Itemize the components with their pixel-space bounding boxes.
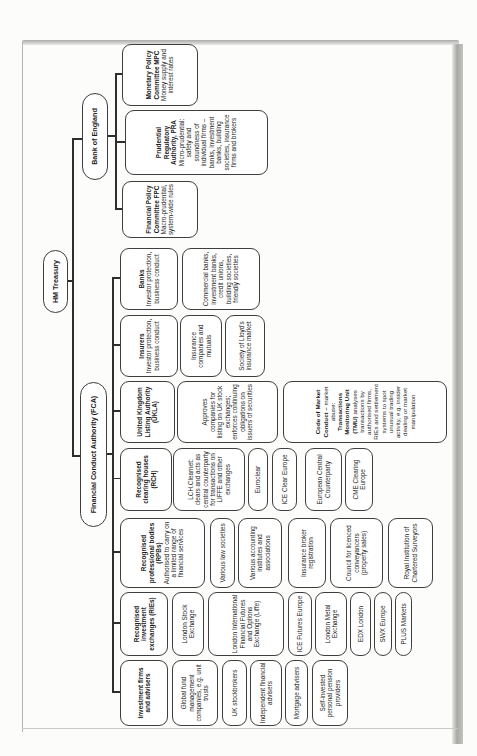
leaf-ukla-market-conduct: Code of Market Conduct – market abuse: T… (283, 381, 447, 443)
leaf-rch-1-label: Euroclear (254, 466, 261, 493)
col-rch-header: Recognised clearing houses (RCH) (120, 448, 172, 511)
organisation-chart: HM TreasuryFinancial Conduct Authority (… (0, 0, 477, 756)
node-mpc: Monetary Policy Committee MPCMoney suppl… (122, 44, 198, 106)
leaf-rch-1: Euroclear (248, 448, 268, 511)
leaf-rch-0: LCH.Clearnet: clears and acts as central… (173, 448, 245, 511)
leaf-ries-5-label: SWX Europe (379, 606, 386, 643)
market-conduct-normal-2: analyses transactions by authorised firm… (351, 384, 416, 440)
leaf-ries-5: SWX Europe (374, 592, 392, 656)
leaf-rch-3-label: European Central Counterparty (316, 450, 331, 509)
leaf-ukla-0-label: Approves companies for listing on UK sto… (201, 383, 253, 441)
leaf-investment-0: Global fund management companies, e.g. u… (172, 660, 218, 726)
leaf-ries-6-label: PLUS Markets (400, 603, 407, 644)
leaf-rpbs-4: Royal Institution of Chartered Surveyors (388, 518, 433, 588)
node-pra-body: Micro-prudential: safety and soundness o… (178, 112, 238, 173)
leaf-ries-0: London Stock Exchange (172, 592, 204, 656)
leaf-rch-2: ICE Clear Europe (272, 448, 297, 511)
leaf-investment-3: Mortgage advisers (285, 660, 308, 726)
leaf-investment-2-label: Independent financial advisers (259, 662, 274, 724)
leaf-banks-0-label: Commercial banks, investment banks, cred… (202, 250, 239, 308)
col-insurers-subtitle: Investor protection, business conduct (145, 317, 160, 375)
leaf-ries-4: EDX London (350, 592, 371, 656)
col-insurers-header: InsurersInvestor protection, business co… (120, 315, 178, 377)
leaf-investment-0-label: Global fund management companies, e.g. u… (180, 662, 210, 724)
col-banks-title: Banks (138, 269, 145, 288)
node-fpc-title: Financial Policy Committee FPC (145, 183, 160, 236)
leaf-rpbs-0-label: Various law societies (219, 523, 226, 582)
leaf-insurers-1: Society of Lloyd's insurance market (225, 315, 265, 377)
leaf-banks-0: Commercial banks, investment banks, cred… (182, 248, 260, 310)
col-rpbs-title: Recognised professional bodies (RPBs) (140, 520, 162, 586)
node-fpc-body: Macro-prudential, system-wide rules (160, 183, 175, 236)
node-hm-treasury-label: HM Treasury (52, 260, 60, 303)
leaf-rpbs-1-label: Various accounting institutes and associ… (249, 520, 271, 586)
leaf-ries-0-label: London Stock Exchange (181, 594, 196, 654)
leaf-ukla-0: Approves companies for listing on UK sto… (177, 381, 278, 443)
connector-line (112, 278, 114, 694)
leaf-rpbs-1: Various accounting institutes and associ… (238, 518, 282, 588)
leaf-investment-3-label: Mortgage advisers (293, 667, 300, 720)
col-rpbs-subtitle: Authorised to carry on a limited range o… (163, 520, 185, 586)
leaf-ries-1-label: London International Financial Futures a… (231, 594, 261, 654)
leaf-ries-2-label: ICE Futures Europe (296, 596, 303, 652)
leaf-rch-4-label: CME Clearing Europe (352, 450, 367, 509)
node-boe: Bank of England (82, 93, 108, 180)
leaf-investment-4-label: Self-invested personal pension providers (319, 662, 341, 724)
col-ukla-title: United Kingdom Listing Authority (UKLA) (136, 383, 158, 441)
node-fca-label: Financial Conduct Authority (FCA) (90, 396, 98, 514)
col-banks-subtitle: Investor protection, business conduct (145, 250, 160, 308)
connector-line (72, 139, 74, 458)
leaf-rch-3: European Central Counterparty (305, 448, 342, 511)
leaf-ries-4-label: EDX London (357, 606, 364, 642)
col-rpbs-header: Recognised professional bodies (RPBs)Aut… (120, 518, 205, 588)
leaf-rch-2-label: ICE Clear Europe (281, 454, 288, 504)
node-fca: Financial Conduct Authority (FCA) (80, 382, 107, 527)
leaf-insurers-0-label: Insurance companies and mutuals (190, 317, 212, 375)
node-hm-treasury: HM Treasury (43, 250, 68, 313)
node-pra-title: Prudential Regulatory Authority, PRA (155, 112, 177, 173)
leaf-ries-1: London International Financial Futures a… (208, 592, 284, 656)
node-boe-label: Bank of England (91, 108, 99, 165)
leaf-ries-2: ICE Futures Europe (288, 592, 312, 656)
col-ries-header: Recognised investment exchanges (RIEs) (120, 592, 168, 656)
leaf-investment-4: Self-invested personal pension providers (312, 660, 348, 726)
col-investment-header: Investment firms and advisers (120, 660, 168, 726)
leaf-investment-2: Independent financial advisers (250, 660, 282, 726)
col-investment-title: Investment firms and advisers (137, 662, 152, 724)
market-conduct-text: Code of Market Conduct – market abuse: T… (314, 383, 416, 441)
node-mpc-title: Monetary Policy Committee MPC (145, 46, 160, 104)
leaf-investment-1-label: UK stockbrokers (231, 670, 238, 717)
leaf-rch-0-label: LCH.Clearnet: clears and acts as central… (187, 450, 232, 509)
col-ries-title: Recognised investment exchanges (RIEs) (133, 594, 155, 654)
leaf-insurers-0: Insurance companies and mutuals (180, 315, 222, 377)
leaf-ries-3: London Metal Exchange (315, 592, 347, 656)
col-rch-title: Recognised clearing houses (RCH) (135, 450, 157, 509)
leaf-investment-1: UK stockbrokers (222, 660, 247, 726)
node-mpc-body: Money supply and interest rates (160, 46, 175, 104)
leaf-rpbs-2-label: Insurance broker registration (300, 520, 315, 586)
col-banks-header: BanksInvestor protection, business condu… (120, 248, 178, 310)
node-pra: Prudential Regulatory Authority, PRAMicr… (125, 110, 268, 175)
leaf-rpbs-3: Council for licenced conveyancers (prope… (330, 518, 383, 588)
leaf-rpbs-2: Insurance broker registration (288, 518, 326, 588)
leaf-insurers-1-label: Society of Lloyd's insurance market (238, 317, 253, 375)
col-ukla-header: United Kingdom Listing Authority (UKLA) (120, 381, 175, 443)
leaf-ries-3-label: London Metal Exchange (324, 594, 339, 654)
leaf-rpbs-0: Various law societies (210, 518, 235, 588)
col-insurers-title: Insurers (138, 333, 145, 358)
leaf-rch-4: CME Clearing Europe (345, 448, 373, 511)
leaf-rpbs-3-label: Council for licenced conveyancers (prope… (345, 520, 367, 586)
node-fpc: Financial Policy Committee FPCMacro-prud… (122, 181, 198, 238)
leaf-ries-6: PLUS Markets (395, 592, 412, 656)
leaf-rpbs-4-label: Royal Institution of Chartered Surveyors (403, 520, 418, 586)
